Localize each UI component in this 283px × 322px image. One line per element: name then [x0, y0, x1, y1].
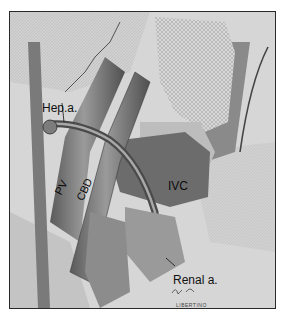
illustration-frame: Hep.a. PV CBD IVC Renal a. LIBERTINO: [9, 11, 276, 309]
label-renal-artery: Renal a.: [173, 274, 218, 286]
artist-signature: LIBERTINO: [176, 302, 207, 308]
anatomy-drawing: [10, 12, 275, 308]
label-hepatic-artery: Hep.a.: [42, 102, 77, 114]
label-inferior-vena-cava: IVC: [168, 180, 188, 192]
